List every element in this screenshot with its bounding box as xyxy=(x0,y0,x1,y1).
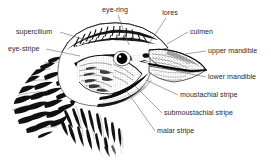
leader-culmen xyxy=(167,32,188,44)
eye-group xyxy=(113,51,130,66)
label-submoustachial-stripe: submoustachial stripe xyxy=(164,109,233,117)
diagram-canvas: eye-ring lores supercilium culmen eye-st… xyxy=(0,0,271,160)
eye-highlight xyxy=(119,55,122,58)
label-upper-mandible: upper mandible xyxy=(208,47,257,55)
leader-moustachial-stripe xyxy=(146,80,178,95)
label-lores: lores xyxy=(162,9,178,17)
label-moustachial-stripe: moustachial stripe xyxy=(180,91,238,99)
label-culmen: culmen xyxy=(190,28,213,36)
label-lower-mandible: lower mandible xyxy=(208,73,256,81)
bird-head-topography-figure: eye-ring lores supercilium culmen eye-st… xyxy=(0,0,271,160)
label-eye-stripe: eye-stripe xyxy=(8,45,39,53)
eye-pupil xyxy=(117,53,128,64)
label-malar-stripe: malar stripe xyxy=(157,127,194,135)
bird-head-illustration xyxy=(8,23,206,158)
label-supercilium: supercilium xyxy=(16,28,52,36)
leader-upper-mandible xyxy=(185,51,206,54)
label-eye-ring: eye-ring xyxy=(102,6,128,14)
